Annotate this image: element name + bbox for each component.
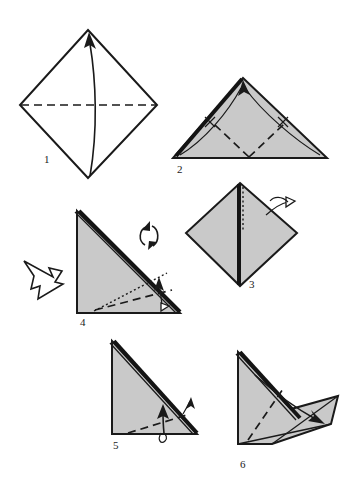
step-6-number: 6 — [240, 458, 246, 470]
step-2-number: 2 — [177, 163, 183, 175]
step-4-number: 4 — [80, 316, 86, 328]
diagram-canvas: 1 2 3 — [0, 0, 345, 486]
origami-diagram: 1 2 3 — [0, 0, 345, 486]
step-1-number: 1 — [44, 153, 50, 165]
step-3-number: 3 — [249, 278, 255, 290]
step-5-number: 5 — [113, 439, 119, 451]
